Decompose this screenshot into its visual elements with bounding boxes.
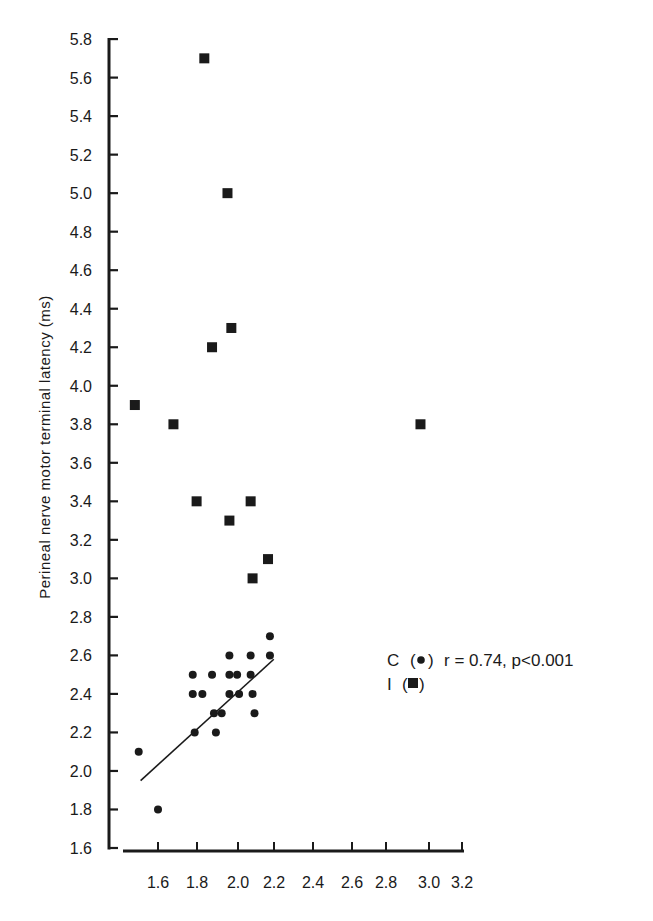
x-tick-label: 2.2 bbox=[263, 874, 285, 891]
legend-paren-close: ) bbox=[419, 675, 425, 694]
legend-entry-i: I ( ) bbox=[387, 675, 425, 694]
data-point-square bbox=[207, 342, 217, 352]
x-tick-label: 1.8 bbox=[186, 874, 208, 891]
y-tick-label: 4.6 bbox=[70, 262, 92, 279]
x-tick-label: 2.4 bbox=[302, 874, 324, 891]
legend-paren-close: ) bbox=[428, 651, 434, 670]
y-tick-label: 3.4 bbox=[70, 493, 92, 510]
y-tick-label: 3.6 bbox=[70, 455, 92, 472]
y-tick-label: 3.0 bbox=[70, 570, 92, 587]
data-point-circle bbox=[233, 671, 241, 679]
data-point-circle bbox=[191, 728, 199, 736]
scatter-chart: 1.61.82.02.22.42.62.83.03.23.43.63.84.04… bbox=[0, 0, 653, 921]
y-axis-title: Perineal nerve motor terminal latency (m… bbox=[36, 295, 53, 599]
y-tick-label: 2.6 bbox=[70, 647, 92, 664]
data-point-square bbox=[192, 496, 202, 506]
data-point-circle bbox=[208, 671, 216, 679]
data-point-circle bbox=[189, 690, 197, 698]
data-point-circle bbox=[251, 709, 259, 717]
series-i-points bbox=[130, 53, 426, 583]
y-tick-label: 3.2 bbox=[70, 532, 92, 549]
data-point-circle bbox=[135, 748, 143, 756]
data-point-square bbox=[199, 53, 209, 63]
y-tick-label: 2.4 bbox=[70, 686, 92, 703]
y-tick-label: 2.0 bbox=[70, 763, 92, 780]
data-point-circle bbox=[266, 632, 274, 640]
legend-paren-open: ( bbox=[402, 675, 408, 694]
legend-label-c: C bbox=[387, 651, 399, 670]
data-point-circle bbox=[225, 671, 233, 679]
data-point-square bbox=[224, 516, 234, 526]
data-point-circle bbox=[218, 709, 226, 717]
y-tick-label: 1.6 bbox=[70, 840, 92, 857]
y-tick-label: 4.2 bbox=[70, 339, 92, 356]
data-point-circle bbox=[235, 690, 243, 698]
legend-entry-c: C ( ) r = 0.74, p<0.001 bbox=[387, 651, 574, 670]
data-point-circle bbox=[198, 690, 206, 698]
x-tick-label: 1.6 bbox=[147, 874, 169, 891]
data-point-circle bbox=[247, 651, 255, 659]
legend-paren-open: ( bbox=[410, 651, 416, 670]
y-tick-label: 3.8 bbox=[70, 416, 92, 433]
data-point-square bbox=[168, 419, 178, 429]
data-point-square bbox=[222, 188, 232, 198]
data-point-square bbox=[226, 323, 236, 333]
x-tick-label: 2.8 bbox=[375, 874, 397, 891]
square-marker-icon bbox=[408, 678, 418, 688]
y-tick-label: 5.0 bbox=[70, 185, 92, 202]
data-point-circle bbox=[225, 651, 233, 659]
data-point-square bbox=[415, 419, 425, 429]
y-tick-label: 5.4 bbox=[70, 108, 92, 125]
y-tick-label: 2.2 bbox=[70, 724, 92, 741]
data-point-circle bbox=[210, 709, 218, 717]
y-tick-label: 4.8 bbox=[70, 224, 92, 241]
y-tick-label: 5.8 bbox=[70, 31, 92, 48]
data-point-circle bbox=[247, 671, 255, 679]
data-point-square bbox=[248, 573, 258, 583]
data-point-circle bbox=[154, 805, 162, 813]
data-point-square bbox=[130, 400, 140, 410]
x-tick-label: 3.0 bbox=[418, 874, 440, 891]
data-point-circle bbox=[266, 651, 274, 659]
data-point-square bbox=[246, 496, 256, 506]
data-point-circle bbox=[212, 728, 220, 736]
x-tick-label: 2.6 bbox=[341, 874, 363, 891]
x-tick-label: 3.2 bbox=[451, 874, 473, 891]
y-tick-label: 4.0 bbox=[70, 378, 92, 395]
legend: C ( ) r = 0.74, p<0.001 I ( ) bbox=[387, 651, 574, 694]
y-tick-label: 4.4 bbox=[70, 301, 92, 318]
x-tick-label: 2.0 bbox=[227, 874, 249, 891]
y-tick-label: 2.8 bbox=[70, 609, 92, 626]
data-point-square bbox=[263, 554, 273, 564]
legend-label-i: I bbox=[387, 675, 392, 694]
y-tick-label: 5.2 bbox=[70, 147, 92, 164]
legend-stat-c: r = 0.74, p<0.001 bbox=[444, 651, 574, 670]
x-axis: 1.61.82.02.22.42.62.83.03.2 bbox=[123, 842, 473, 891]
data-point-circle bbox=[189, 671, 197, 679]
data-point-circle bbox=[225, 690, 233, 698]
circle-marker-icon bbox=[417, 656, 425, 664]
regression-line bbox=[141, 659, 274, 780]
regression-segment bbox=[141, 659, 274, 780]
data-point-circle bbox=[249, 690, 257, 698]
y-tick-label: 1.8 bbox=[70, 801, 92, 818]
y-tick-label: 5.6 bbox=[70, 70, 92, 87]
y-axis: 1.61.82.02.22.42.62.83.03.23.43.63.84.04… bbox=[70, 31, 118, 857]
